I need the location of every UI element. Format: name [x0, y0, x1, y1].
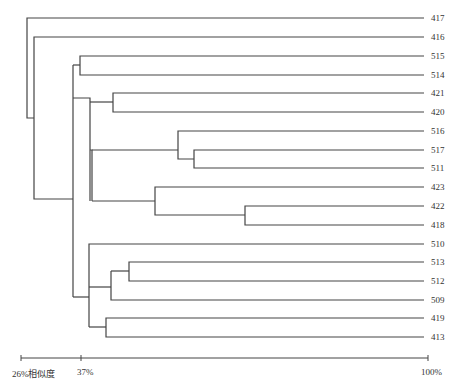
branch-root	[27, 18, 424, 118]
leaf-label: 517	[431, 145, 445, 155]
leaf-label: 511	[431, 163, 444, 173]
leaf-label: 416	[431, 32, 445, 42]
similarity-axis	[21, 355, 428, 361]
leaf-label: 418	[431, 220, 445, 230]
leaf-label: 421	[431, 88, 445, 98]
leaf-label: 509	[431, 295, 445, 305]
leaf-label: 513	[431, 257, 445, 267]
leaf-label: 516	[431, 126, 445, 136]
leaf-label: 422	[431, 201, 445, 211]
leaf-label: 419	[431, 313, 445, 323]
dendrogram-tree	[0, 0, 461, 390]
leaf-label: 512	[431, 276, 445, 286]
leaf-label: 417	[431, 13, 445, 23]
leaf-label: 420	[431, 107, 445, 117]
axis-end-label: 100%	[421, 367, 442, 377]
axis-tick-label: 37%	[77, 367, 94, 377]
leaf-label: 413	[431, 332, 445, 342]
leaf-label: 423	[431, 182, 445, 192]
leaf-label: 510	[431, 239, 445, 249]
axis-start-label: 26%相似度	[12, 367, 56, 380]
leaf-label: 515	[431, 51, 445, 61]
leaf-label: 514	[431, 70, 445, 80]
